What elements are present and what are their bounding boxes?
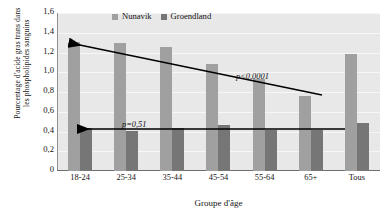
legend-label: Nunavik — [122, 12, 152, 21]
chart-legend: NunavikGroendland — [112, 12, 211, 21]
x-tick-label: Tous — [334, 173, 380, 183]
y-tick-label: 0,2 — [43, 145, 54, 154]
y-tick-label: 0,4 — [43, 126, 54, 135]
bar-nunavik-55-64 — [253, 79, 265, 171]
bar-nunavik-18-24 — [68, 42, 80, 171]
annotation-p-nunavik: p<0,0001 — [236, 72, 269, 81]
legend-item-groendland: Groendland — [161, 12, 212, 21]
bar-groendland-65+ — [311, 130, 323, 171]
y-tick-label: 0,6 — [43, 106, 54, 115]
x-axis-title: Groupe d'âge — [57, 198, 380, 208]
y-tick-label: 0,8 — [43, 86, 54, 95]
annotation-p-groendland: p=0,51 — [122, 120, 147, 129]
bar-groendland-35-44 — [172, 128, 184, 171]
x-tick-label: 65+ — [288, 173, 334, 183]
x-axis-ticks: 18-2425-3435-4445-5455-6465+Tous — [57, 173, 380, 187]
y-axis-ticks: 00,20,40,60,81,01,21,41,6 — [28, 11, 54, 171]
bar-nunavik-35-44 — [160, 47, 172, 171]
chart-figure: Pourcentage d'acide gras trans dans les … — [0, 0, 390, 218]
bar-nunavik-45-54 — [206, 64, 218, 171]
legend-item-nunavik: Nunavik — [112, 12, 152, 21]
legend-swatch-icon — [161, 14, 167, 20]
bar-group — [334, 13, 380, 171]
bar-nunavik-25-34 — [114, 43, 126, 171]
y-tick-label: 1,6 — [43, 7, 54, 16]
bar-group — [242, 13, 288, 171]
bar-group — [57, 13, 103, 171]
bar-groups — [57, 13, 380, 171]
bar-nunavik-65+ — [299, 96, 311, 171]
bar-groendland-18-24 — [80, 128, 92, 171]
bar-group — [103, 13, 149, 171]
bar-groendland-55-64 — [265, 130, 277, 171]
bar-groendland-Tous — [357, 123, 369, 171]
y-tick-label: 1,4 — [43, 27, 54, 36]
x-tick-label: 18-24 — [57, 173, 103, 183]
y-tick-label: 1,0 — [43, 66, 54, 75]
x-tick-label: 45-54 — [195, 173, 241, 183]
x-tick-label: 35-44 — [149, 173, 195, 183]
bar-group — [288, 13, 334, 171]
bar-group — [149, 13, 195, 171]
y-axis-title-line-1: Pourcentage d'acide gras trans dans — [13, 0, 22, 143]
y-tick-label: 1,2 — [43, 47, 54, 56]
bar-group — [195, 13, 241, 171]
bar-groendland-45-54 — [218, 125, 230, 171]
y-tick-label: 0 — [50, 165, 54, 174]
bar-nunavik-Tous — [345, 54, 357, 172]
x-tick-label: 55-64 — [242, 173, 288, 183]
legend-label: Groendland — [171, 12, 212, 21]
x-tick-label: 25-34 — [103, 173, 149, 183]
legend-swatch-icon — [112, 14, 118, 20]
bar-groendland-25-34 — [126, 131, 138, 171]
